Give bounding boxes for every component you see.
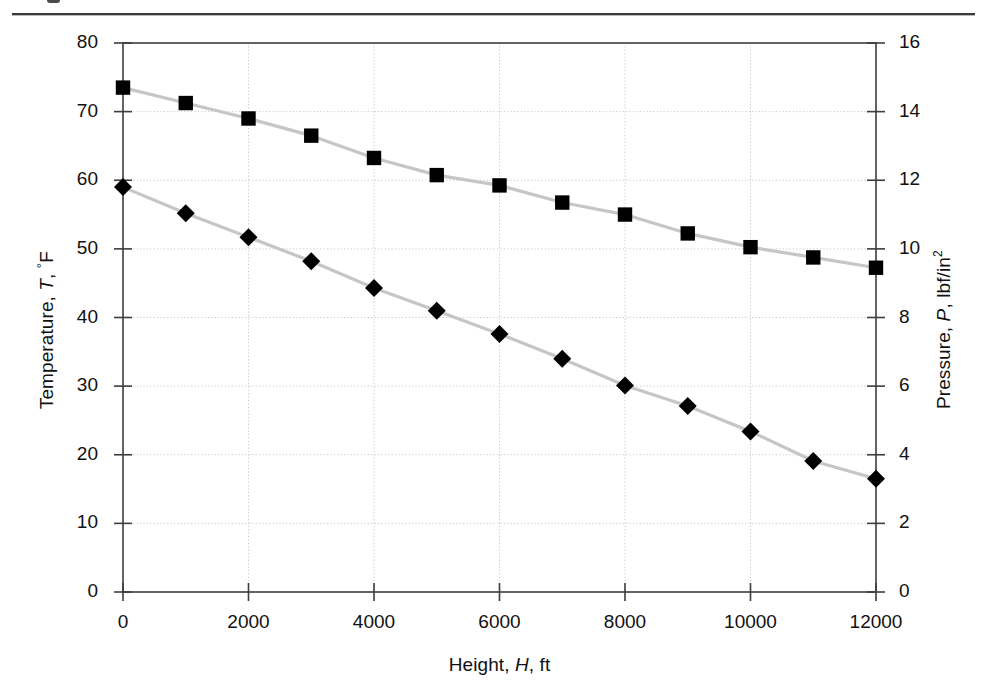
y-axis-right-tick-label: 2 [899, 511, 959, 533]
data-point-diamond [365, 279, 383, 297]
data-point-square [241, 111, 255, 125]
data-point-square [430, 168, 444, 182]
y-axis-right-tick-label: 6 [899, 374, 959, 396]
data-point-diamond [679, 397, 697, 415]
figure-container: Temperature, T, °F Pressure, P, lbf/in2 … [0, 0, 989, 695]
y-axis-left-tick-label: 10 [38, 511, 98, 533]
y-axis-right-tick-label: 10 [899, 237, 959, 259]
y-axis-right-tick-label: 14 [899, 100, 959, 122]
y-axis-left-tick-label: 0 [38, 580, 98, 602]
data-point-diamond [177, 204, 195, 222]
data-point-square [618, 207, 632, 221]
x-axis-tick-label: 4000 [314, 611, 434, 633]
data-point-diamond [867, 470, 885, 488]
x-axis-tick-label: 10000 [691, 611, 811, 633]
chart-plot-area [0, 0, 989, 695]
data-point-diamond [491, 325, 509, 343]
y-axis-left-tick-label: 50 [38, 237, 98, 259]
x-axis-tick-label: 6000 [440, 611, 560, 633]
series-pressure [116, 80, 883, 275]
y-axis-right-tick-label: 4 [899, 443, 959, 465]
data-point-square [492, 178, 506, 192]
x-axis-tick-label: 2000 [189, 611, 309, 633]
y-axis-right-tick-label: 0 [899, 580, 959, 602]
y-axis-left-tick-label: 40 [38, 306, 98, 328]
y-axis-left-tick-label: 70 [38, 100, 98, 122]
data-point-diamond [302, 252, 320, 270]
data-point-square [367, 151, 381, 165]
y-axis-left-tick-label: 20 [38, 443, 98, 465]
data-point-square [179, 96, 193, 110]
y-axis-left-tick-label: 60 [38, 168, 98, 190]
y-axis-right-tick-label: 12 [899, 168, 959, 190]
data-point-diamond [240, 228, 258, 246]
x-axis-tick-label: 12000 [816, 611, 936, 633]
data-point-square [869, 261, 883, 275]
y-axis-right-tick-label: 8 [899, 306, 959, 328]
data-point-square [806, 250, 820, 264]
data-point-diamond [742, 422, 760, 440]
y-axis-right-title: Pressure, P, lbf/in2 [931, 180, 954, 480]
y-axis-right-tick-label: 16 [899, 31, 959, 53]
data-point-square [681, 226, 695, 240]
x-axis-title: Height, H, ft [123, 654, 876, 676]
data-series-group [114, 80, 885, 487]
data-point-square [743, 240, 757, 254]
y-axis-left-title: Temperature, T, °F [34, 180, 58, 480]
data-point-square [304, 128, 318, 142]
x-axis-tick-label: 0 [63, 611, 183, 633]
data-point-diamond [616, 376, 634, 394]
data-point-diamond [553, 350, 571, 368]
y-axis-left-tick-label: 30 [38, 374, 98, 396]
data-point-square [116, 80, 130, 94]
y-axis-left-tick-label: 80 [38, 31, 98, 53]
gridlines [123, 43, 876, 592]
data-point-square [555, 195, 569, 209]
data-point-diamond [428, 302, 446, 320]
x-axis-tick-label: 8000 [565, 611, 685, 633]
